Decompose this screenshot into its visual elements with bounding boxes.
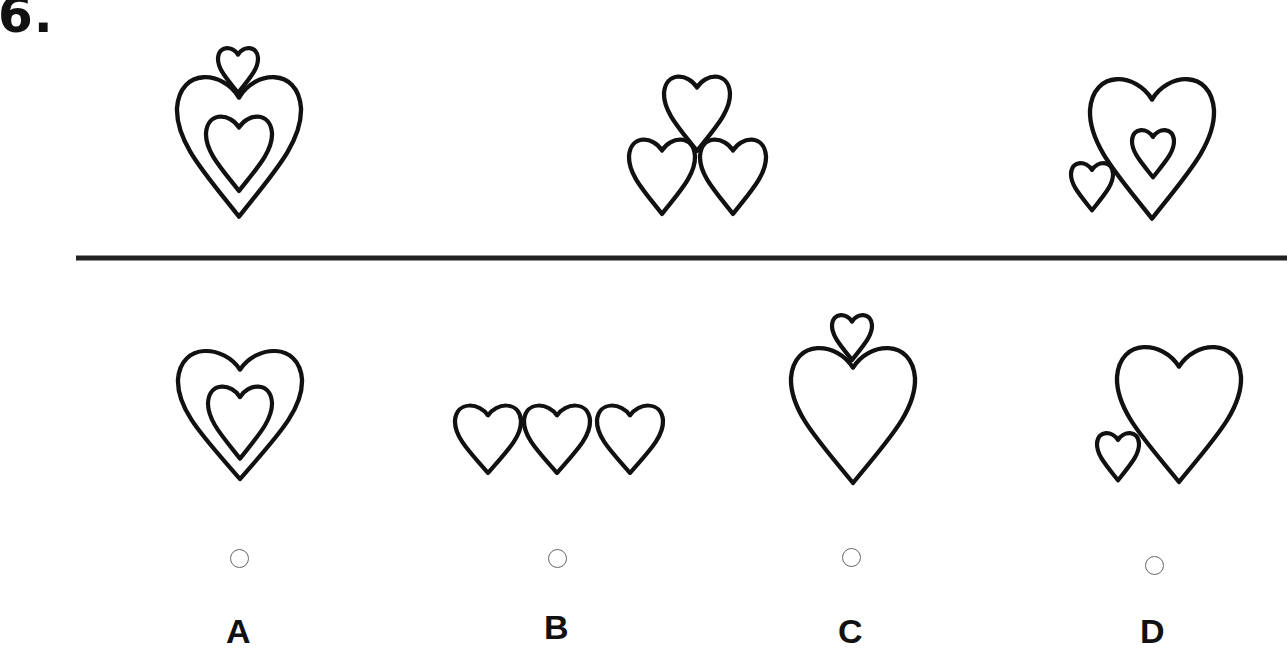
- option-d-heart-icon: [1097, 347, 1241, 482]
- option-b-heart-icon: [455, 406, 663, 473]
- seq-figure-2-heart-icon: [629, 77, 766, 214]
- option-c-heart-icon: [791, 315, 915, 483]
- option-b-label: B: [544, 608, 569, 647]
- option-a-radio[interactable]: [230, 549, 249, 568]
- figure-canvas: [0, 0, 1287, 658]
- option-c-label: C: [838, 612, 863, 651]
- option-b-radio[interactable]: [548, 549, 567, 568]
- option-d-label: D: [1140, 612, 1165, 651]
- option-c-radio[interactable]: [842, 548, 861, 567]
- seq-figure-3-heart-icon: [1071, 79, 1214, 218]
- option-a-heart-icon: [178, 351, 302, 479]
- option-a-label: A: [226, 612, 251, 651]
- option-d-radio[interactable]: [1145, 556, 1164, 575]
- seq-figure-1-heart-icon: [177, 48, 301, 217]
